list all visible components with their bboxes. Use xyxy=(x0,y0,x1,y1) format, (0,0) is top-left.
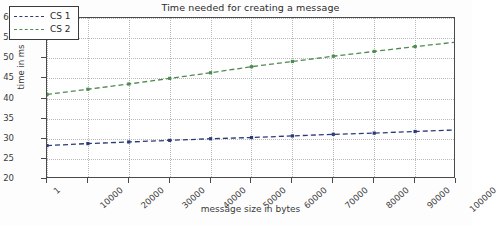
data-point xyxy=(47,93,49,96)
data-point xyxy=(47,144,49,147)
x-tick-mark xyxy=(455,178,456,183)
legend-swatch-cs2 xyxy=(14,25,44,35)
data-point xyxy=(454,41,455,44)
x-tick-label: 1 xyxy=(51,185,62,196)
data-point xyxy=(373,50,376,53)
data-point xyxy=(291,134,294,137)
data-point xyxy=(291,60,294,63)
legend-item: CS 2 xyxy=(14,23,71,36)
x-tick-label: 100000 xyxy=(467,185,498,214)
legend-label: CS 2 xyxy=(50,23,71,36)
chart-legend: CS 1 CS 2 xyxy=(9,6,79,40)
x-tick-mark xyxy=(46,178,47,183)
data-point xyxy=(373,132,376,135)
x-tick-mark xyxy=(169,178,170,183)
data-point xyxy=(127,82,130,85)
y-tick-label: 30 xyxy=(0,133,14,143)
data-point xyxy=(86,142,89,145)
data-point xyxy=(209,71,212,74)
legend-item: CS 1 xyxy=(14,10,71,23)
data-point xyxy=(414,130,417,133)
plot-area xyxy=(46,17,455,178)
x-tick-mark xyxy=(332,178,333,183)
series-line-cs-2 xyxy=(47,42,455,94)
legend-swatch-cs1 xyxy=(14,12,44,22)
x-tick-mark xyxy=(291,178,292,183)
y-tick-label: 40 xyxy=(0,93,14,103)
data-point xyxy=(168,139,171,142)
y-tick-label: 25 xyxy=(0,153,14,163)
y-tick-mark xyxy=(41,178,46,179)
data-point xyxy=(86,88,89,91)
chart-title: Time needed for creating a message xyxy=(46,2,455,13)
y-tick-label: 50 xyxy=(0,52,14,62)
data-point xyxy=(209,137,212,140)
data-point xyxy=(250,65,253,68)
data-point xyxy=(250,136,253,139)
data-point xyxy=(168,77,171,80)
x-axis-label: message size in bytes xyxy=(46,204,455,214)
y-tick-label: 35 xyxy=(0,113,14,123)
data-point xyxy=(454,128,455,131)
x-tick-mark xyxy=(373,178,374,183)
y-tick-label: 45 xyxy=(0,72,14,82)
y-axis-label: time in ms xyxy=(16,32,26,102)
x-tick-mark xyxy=(414,178,415,183)
x-tick-mark xyxy=(87,178,88,183)
series-lines xyxy=(47,18,455,178)
data-point xyxy=(332,133,335,136)
x-tick-mark xyxy=(210,178,211,183)
data-point xyxy=(414,45,417,48)
data-point xyxy=(332,55,335,58)
x-tick-mark xyxy=(250,178,251,183)
data-point xyxy=(127,140,130,143)
legend-label: CS 1 xyxy=(50,10,71,23)
x-tick-mark xyxy=(128,178,129,183)
y-tick-label: 20 xyxy=(0,173,14,183)
